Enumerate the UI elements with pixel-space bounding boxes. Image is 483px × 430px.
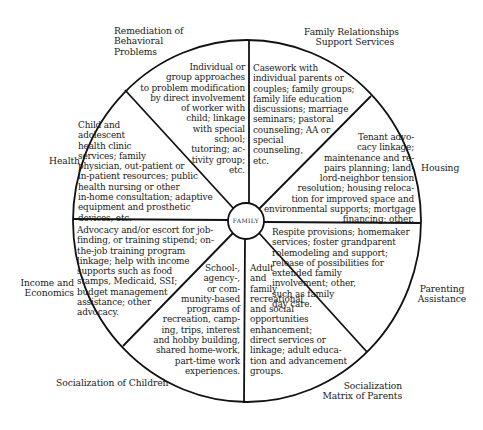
- outer-label-housing: Housing: [421, 163, 459, 173]
- outer-label-parenting: Parenting Assistance: [412, 284, 472, 305]
- outer-label-socialization-parents: Socialization Matrix of Parents: [320, 381, 402, 402]
- outer-label-health: Health: [49, 156, 80, 166]
- divider-vertical-bottom: [244, 238, 245, 403]
- segment-health: Child and adolescent health clinic servi…: [78, 120, 198, 223]
- outer-label-remediation: Remediation of Behavioral Problems: [114, 26, 183, 57]
- outer-label-socialization-children: Socialization of Children: [56, 378, 168, 388]
- segment-housing: Tenant advo- cacy linkage; maintenance a…: [264, 132, 414, 225]
- segment-socialization-children: School-, agency-, or com- munity-based p…: [150, 263, 240, 376]
- outer-label-family-relationships: Family Relationships Support Services: [304, 27, 394, 48]
- center-label: FAMILY: [226, 217, 266, 224]
- outer-label-income: Income and Economics: [14, 278, 74, 299]
- segment-socialization-parents: Adult and family recreational and social…: [250, 263, 347, 376]
